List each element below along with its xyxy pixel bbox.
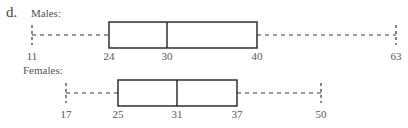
- males-tick-label-min: 11: [27, 50, 38, 62]
- females-tick-label-q1: 25: [113, 108, 124, 120]
- males-tick-label-q3: 40: [252, 50, 263, 62]
- females-tick-label-min: 17: [61, 108, 72, 120]
- males-tick-label-median: 30: [162, 50, 173, 62]
- males-tick-label-max: 63: [391, 50, 402, 62]
- males-box: [109, 22, 257, 48]
- males-tick-label-q1: 24: [104, 50, 115, 62]
- females-tick-label-median: 31: [172, 108, 183, 120]
- females-tick-label-q3: 37: [232, 108, 243, 120]
- females-tick-label-max: 50: [316, 108, 327, 120]
